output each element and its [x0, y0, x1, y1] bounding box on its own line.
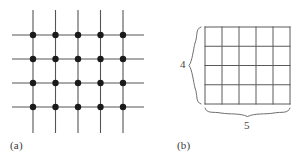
panel-b-dimensioned-grid: 4 5 (b): [153, 0, 306, 161]
lattice-dot: [97, 80, 103, 86]
lattice-dot: [52, 56, 58, 62]
lattice-dot: [97, 32, 103, 38]
lattice-dot: [120, 80, 126, 86]
panel-a-drawing: [0, 0, 153, 161]
figure-container: (a) 4 5: [0, 0, 306, 161]
lattice-dot: [30, 56, 36, 62]
lattice-dot: [97, 56, 103, 62]
lattice-dot: [30, 32, 36, 38]
width-brace: [205, 108, 290, 117]
lattice-dot: [52, 80, 58, 86]
panel-a-lattice: (a): [0, 0, 153, 161]
lattice-dot: [75, 56, 81, 62]
width-dimension-label: 5: [244, 119, 250, 131]
lattice-dot: [30, 104, 36, 110]
lattice-dot: [75, 80, 81, 86]
lattice-dot: [75, 32, 81, 38]
lattice-dot: [120, 104, 126, 110]
panel-b-caption: (b): [177, 139, 190, 151]
cell-grid-lines-horizontal: [205, 27, 290, 104]
lattice-dot: [97, 104, 103, 110]
lattice-dot: [120, 32, 126, 38]
grid-lines-vertical: [33, 10, 123, 133]
lattice-dot: [75, 104, 81, 110]
lattice-dot: [30, 80, 36, 86]
height-brace: [189, 27, 201, 104]
lattice-dot: [120, 56, 126, 62]
panel-a-caption: (a): [10, 139, 23, 151]
lattice-dot: [52, 32, 58, 38]
panel-b-drawing: [153, 0, 306, 161]
lattice-dot: [52, 104, 58, 110]
height-dimension-label: 4: [180, 58, 186, 70]
